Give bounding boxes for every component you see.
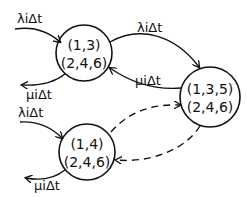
- label-out-state-3: μiΔt: [34, 178, 60, 193]
- label-in-state-3: λiΔt: [18, 105, 43, 120]
- state-1-line1: (1,3): [67, 37, 100, 53]
- state-node-2: (1,3,5) (2,4,6): [180, 67, 240, 127]
- label-s1-to-s2: λiΔt: [137, 20, 162, 35]
- state-3-line2: (2,4,6): [64, 154, 111, 170]
- dashed-arrow-s3-to-s2: [111, 105, 180, 132]
- arrow-out-state-1: [22, 74, 65, 85]
- state-node-1: (1,3) (2,4,6): [56, 25, 112, 81]
- label-s2-to-s1: μiΔt: [135, 73, 161, 88]
- state-transition-diagram: (1,3) (2,4,6) (1,3,5) (2,4,6) (1,4) (2,4…: [0, 0, 247, 197]
- state-2-line2: (2,4,6): [187, 99, 234, 115]
- arrow-s1-to-s2: [110, 34, 199, 67]
- arrow-in-state-3: [20, 122, 62, 138]
- arrow-in-state-1: [15, 28, 60, 42]
- label-out-state-1: μiΔt: [26, 87, 52, 102]
- dashed-arrow-s2-to-s3: [116, 126, 200, 160]
- state-2-line1: (1,3,5): [187, 81, 234, 97]
- state-1-line2: (2,4,6): [61, 55, 108, 71]
- label-in-state-1: λiΔt: [17, 11, 42, 26]
- state-node-3: (1,4) (2,4,6): [59, 124, 115, 180]
- state-3-line1: (1,4): [70, 136, 103, 152]
